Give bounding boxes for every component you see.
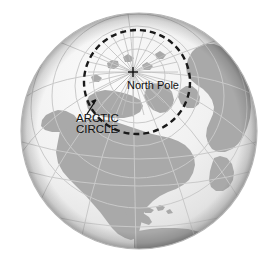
globe-rim-shading	[21, 13, 257, 249]
north-pole-label: North Pole	[127, 79, 179, 91]
globe-figure: North Pole ARCTIC CIRCLE	[0, 0, 265, 268]
globe-illustration: North Pole ARCTIC CIRCLE	[0, 0, 265, 268]
arctic-circle-label-line-2: CIRCLE	[76, 123, 119, 135]
